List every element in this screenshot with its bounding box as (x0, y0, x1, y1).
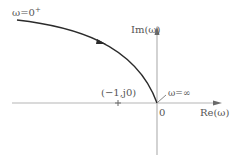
direction-arrow-icon (96, 39, 106, 44)
omega-inf-pointer (158, 95, 166, 102)
origin-label: 0 (159, 107, 165, 118)
imag-axis-label: Im(ω) (131, 24, 160, 35)
omega-end-label: ω=∞ (168, 88, 190, 98)
omega-start-label: ω=0+ (12, 6, 41, 18)
nyquist-diagram: ω=0+ Im(ω) (−1,j0) ω=∞ 0 Re(ω) (0, 0, 238, 162)
critical-point-label: (−1,j0) (101, 87, 136, 98)
real-axis-label: Re(ω) (200, 107, 230, 118)
real-axis-arrow-icon (213, 101, 222, 106)
